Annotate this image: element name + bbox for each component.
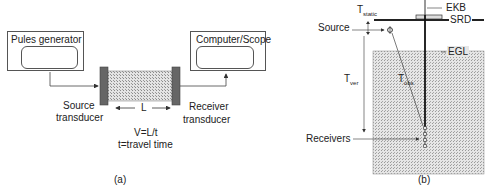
- source-transducer-label-2: transducer: [56, 112, 103, 123]
- scope-screen: [196, 46, 254, 69]
- signal-wire-source: [50, 72, 98, 86]
- ground-layer: [373, 51, 484, 174]
- ekb-label: EKB: [446, 2, 466, 13]
- pulse-generator-label: Pules generator: [11, 34, 82, 45]
- t-obs-label: Tobs: [398, 73, 414, 86]
- t-static-label: Tstatic: [357, 4, 377, 17]
- ekb-plate: [416, 15, 442, 19]
- egl-label: EGL: [447, 46, 469, 57]
- receiver-transducer-label-1: Receiver: [189, 101, 228, 112]
- rock-sample: [107, 71, 173, 101]
- source-label: Source: [318, 22, 350, 33]
- receiver-transducer-label-2: transducer: [183, 114, 230, 125]
- pulse-generator-screen: [21, 46, 78, 69]
- velocity-formula: V=L/t: [134, 127, 158, 138]
- srd-label: SRD: [449, 14, 472, 25]
- travel-time-definition: t=travel time: [118, 139, 173, 150]
- receiver-transducer: [172, 67, 180, 105]
- panel-a-connectors: [0, 0, 488, 191]
- caption-a: (a): [114, 174, 126, 185]
- length-label: L: [141, 102, 147, 113]
- t-ver-label: Tver: [344, 73, 358, 86]
- signal-wire-receiver: [180, 74, 226, 86]
- computer-scope-label: Computer/Scope: [196, 34, 271, 45]
- caption-b: (b): [418, 174, 430, 185]
- source-transducer: [100, 67, 108, 105]
- receivers-label: Receivers: [306, 133, 350, 144]
- source-transducer-label-1: Source: [63, 100, 95, 111]
